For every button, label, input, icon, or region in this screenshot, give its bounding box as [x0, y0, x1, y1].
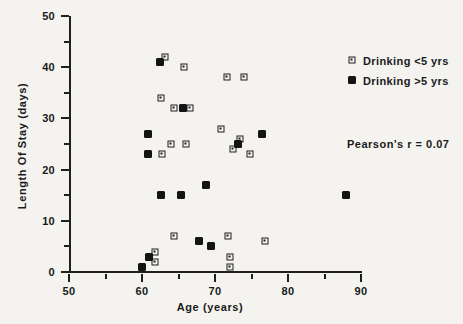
legend-marker-open-square [347, 56, 363, 65]
x-tick [287, 274, 289, 282]
x-tick-label: 50 [63, 285, 76, 297]
data-point [144, 151, 151, 158]
plot-area [69, 16, 361, 272]
x-tick [360, 274, 362, 282]
x-tick-label: 90 [355, 285, 368, 297]
x-minor-tick [324, 274, 326, 279]
data-point [144, 130, 151, 137]
y-tick [61, 15, 69, 17]
data-point [247, 151, 254, 158]
y-tick [61, 169, 69, 171]
x-tick [141, 274, 143, 282]
data-point [217, 125, 224, 132]
pearson-r-annotation: Pearson's r = 0.07 [347, 138, 449, 150]
data-point [139, 263, 146, 270]
x-minor-tick [251, 274, 253, 279]
y-minor-tick [64, 143, 70, 145]
data-point [207, 243, 214, 250]
legend-label-drinking-lt5: Drinking <5 yrs [363, 55, 449, 67]
data-point [226, 253, 233, 260]
data-point [223, 74, 230, 81]
y-tick-label: 50 [23, 10, 55, 22]
x-minor-tick [105, 274, 107, 279]
y-tick-label: 0 [23, 266, 55, 278]
data-point [146, 253, 153, 260]
data-point [235, 141, 242, 148]
data-point [343, 192, 350, 199]
legend-item-drinking-lt5: Drinking <5 yrs [347, 52, 449, 69]
data-point [195, 238, 202, 245]
y-tick [61, 271, 69, 273]
data-point [181, 64, 188, 71]
y-tick [61, 66, 69, 68]
data-point [178, 192, 185, 199]
x-tick [68, 274, 70, 282]
data-point [171, 105, 178, 112]
y-tick-label: 30 [23, 112, 55, 124]
x-axis-title: Age (years) [0, 301, 420, 313]
y-tick-label: 10 [23, 215, 55, 227]
data-point [203, 181, 210, 188]
y-minor-tick [64, 245, 70, 247]
y-tick-label: 40 [23, 61, 55, 73]
x-tick-label: 60 [136, 285, 149, 297]
data-point [225, 233, 232, 240]
legend-marker-filled-diamond [347, 76, 363, 85]
data-point [241, 74, 248, 81]
legend-label-drinking-gt5: Drinking >5 yrs [363, 75, 449, 87]
data-point [157, 192, 164, 199]
data-point [157, 94, 164, 101]
data-point [258, 130, 265, 137]
data-point [171, 233, 178, 240]
data-point [187, 105, 194, 112]
data-point [179, 105, 186, 112]
y-minor-tick [64, 41, 70, 43]
y-tick [61, 220, 69, 222]
legend-item-drinking-gt5: Drinking >5 yrs [347, 72, 449, 89]
data-point [159, 151, 166, 158]
data-point [226, 263, 233, 270]
data-point [182, 141, 189, 148]
data-point [156, 59, 163, 66]
data-point [261, 238, 268, 245]
x-tick [214, 274, 216, 282]
x-tick-label: 70 [209, 285, 222, 297]
y-minor-tick [64, 194, 70, 196]
x-tick-label: 80 [282, 285, 295, 297]
y-minor-tick [64, 92, 70, 94]
y-tick-label: 20 [23, 164, 55, 176]
data-point [168, 141, 175, 148]
scatter-plot-figure: Age (years) Length Of Stay (days) Drinki… [0, 0, 463, 324]
legend: Drinking <5 yrs Drinking >5 yrs [347, 52, 449, 92]
x-minor-tick [178, 274, 180, 279]
y-tick [61, 117, 69, 119]
